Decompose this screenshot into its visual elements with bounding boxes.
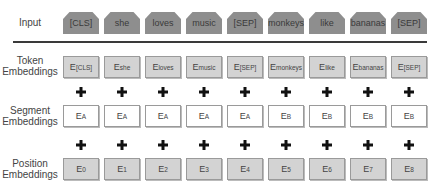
plus-icon: [309, 87, 345, 97]
token-embedding-cell: E[SEP]: [391, 56, 427, 78]
segment-embedding-cell: EA: [104, 105, 140, 127]
plus-icon: [186, 140, 222, 150]
plus-icon: [268, 87, 304, 97]
plus-icon: [350, 87, 386, 97]
position-embedding-cell: E5: [268, 158, 304, 180]
input-token-text: [CLS]: [70, 18, 93, 28]
token-embedding-cell: Emonkeys: [268, 56, 304, 78]
segment-label-line2: Embeddings: [0, 116, 60, 127]
cell-subscript: 3: [205, 166, 209, 173]
segment-embedding-cell: EA: [145, 105, 181, 127]
segment-embedding-cell: EA: [186, 105, 222, 127]
segment-label-line1: Segment: [0, 105, 60, 116]
position-embedding-cell: E2: [145, 158, 181, 180]
cell-subscript: bananas: [359, 64, 384, 71]
cell-subscript: A: [164, 113, 168, 120]
cell-subscript: [SEP]: [240, 64, 257, 71]
input-token-text: she: [115, 18, 130, 28]
input-token: loves: [145, 12, 181, 34]
segment-embedding-cell: EB: [350, 105, 386, 127]
input-token: [SEP]: [227, 12, 263, 34]
plus-icon: [268, 140, 304, 150]
cell-subscript: 0: [82, 166, 86, 173]
position-embedding-cell: E0: [63, 158, 99, 180]
segment-embedding-cell: EA: [63, 105, 99, 127]
plus-icon: [104, 140, 140, 150]
token-label-line1: Token: [0, 55, 60, 66]
token-embedding-cell: Eshe: [104, 56, 140, 78]
input-row-label: Input: [0, 17, 60, 28]
cell-subscript: B: [369, 113, 373, 120]
position-embeddings-label: Position Embeddings: [0, 158, 60, 180]
cell-subscript: A: [123, 113, 127, 120]
cell-subscript: music: [199, 64, 216, 71]
segment-embedding-cell: EB: [309, 105, 345, 127]
input-token: monkeys: [268, 12, 304, 34]
cell-subscript: monkeys: [276, 64, 302, 71]
input-token-text: loves: [152, 18, 173, 28]
plus-icon: [104, 87, 140, 97]
cell-subscript: loves: [158, 64, 173, 71]
segment-embedding-cell: EB: [391, 105, 427, 127]
position-embedding-cell: E7: [350, 158, 386, 180]
position-label-line1: Position: [0, 158, 60, 169]
input-token: music: [186, 12, 222, 34]
input-token: [CLS]: [63, 12, 99, 34]
position-embedding-cell: E4: [227, 158, 263, 180]
input-token-text: [SEP]: [233, 18, 256, 28]
cell-subscript: A: [246, 113, 250, 120]
plus-icon: [63, 140, 99, 150]
position-label-line2: Embeddings: [0, 169, 60, 180]
cell-subscript: 7: [369, 166, 373, 173]
token-embedding-cell: Eloves: [145, 56, 181, 78]
input-token: like: [309, 12, 345, 34]
cell-subscript: A: [205, 113, 209, 120]
token-label-line2: Embeddings: [0, 66, 60, 77]
input-token: bananas: [350, 12, 386, 34]
input-token-text: [SEP]: [397, 18, 420, 28]
cell-subscript: 4: [246, 166, 250, 173]
position-embedding-cell: E8: [391, 158, 427, 180]
position-embedding-cell: E6: [309, 158, 345, 180]
token-embedding-cell: E[SEP]: [227, 56, 263, 78]
segment-embeddings-label: Segment Embeddings: [0, 105, 60, 127]
cell-subscript: B: [328, 113, 332, 120]
cell-subscript: 1: [123, 166, 127, 173]
cell-subscript: 5: [287, 166, 291, 173]
token-embedding-cell: E[CLS]: [63, 56, 99, 78]
position-embedding-cell: E3: [186, 158, 222, 180]
plus-icon: [186, 87, 222, 97]
input-token-text: bananas: [351, 18, 386, 28]
plus-icon: [145, 140, 181, 150]
input-token: she: [104, 12, 140, 34]
plus-icon: [350, 140, 386, 150]
position-embedding-cell: E1: [104, 158, 140, 180]
segment-embedding-cell: EB: [268, 105, 304, 127]
cell-subscript: she: [120, 64, 130, 71]
cell-subscript: A: [82, 113, 86, 120]
plus-icon: [309, 140, 345, 150]
plus-icon: [145, 87, 181, 97]
cell-subscript: 6: [328, 166, 332, 173]
cell-subscript: B: [410, 113, 414, 120]
cell-subscript: B: [287, 113, 291, 120]
cell-subscript: 8: [410, 166, 414, 173]
token-embedding-cell: Elike: [309, 56, 345, 78]
plus-icon: [63, 87, 99, 97]
plus-icon: [227, 87, 263, 97]
plus-icon: [227, 140, 263, 150]
plus-icon: [391, 140, 427, 150]
input-label-text: Input: [19, 17, 41, 28]
divider-line: [13, 41, 427, 43]
cell-subscript: 2: [164, 166, 168, 173]
input-token-text: music: [192, 18, 216, 28]
token-embedding-cell: Ebananas: [350, 56, 386, 78]
segment-embedding-cell: EA: [227, 105, 263, 127]
token-embedding-cell: Emusic: [186, 56, 222, 78]
input-token-text: monkeys: [268, 18, 304, 28]
cell-subscript: [SEP]: [404, 64, 421, 71]
input-token-text: like: [320, 18, 334, 28]
cell-subscript: [CLS]: [76, 64, 92, 71]
plus-icon: [391, 87, 427, 97]
token-embeddings-label: Token Embeddings: [0, 55, 60, 77]
